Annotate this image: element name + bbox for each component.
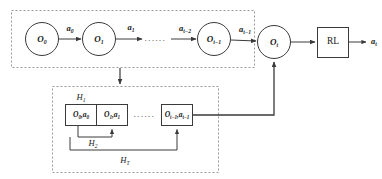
node-ot-minus-1-label: Ot−1 (207, 35, 222, 44)
diagram-vector-layer (0, 0, 382, 179)
edge-at-minus-1-arrow (231, 40, 256, 41)
node-o0-label: O0 (37, 35, 46, 44)
edge-a0-label: a0 (66, 24, 73, 33)
edge-a1-label: a1 (127, 23, 134, 32)
history-cell-1-label: O1,a1 (104, 111, 120, 119)
rl-output-label: at (371, 37, 377, 46)
bracket-h2-label: H2 (88, 139, 97, 148)
bracket-h2-path (78, 126, 112, 137)
edge-at-minus-1-label: at−1 (239, 25, 251, 34)
node-ot-label: Ot (270, 38, 278, 47)
bracket-h1-label: H1 (76, 93, 85, 102)
chain-ellipsis: ······ (144, 35, 166, 45)
rl-block-label: RL (327, 37, 339, 47)
bracket-ht-path (70, 130, 177, 151)
bracket-ht-label: HT (120, 156, 129, 165)
edge-at-minus-2-label: at−2 (179, 24, 191, 33)
diagram-canvas: O0 O1 Ot−1 Ot a0 a1 at−2 at−1 ······ RL … (0, 0, 382, 179)
history-cell-last-label: Ot−1,at−1 (165, 111, 190, 119)
edge-history-to-ot-arrow (193, 62, 274, 115)
history-ellipsis: ······ (133, 111, 155, 121)
node-o1-label: O1 (94, 35, 103, 44)
history-cell-0-label: O0,a0 (73, 111, 89, 119)
